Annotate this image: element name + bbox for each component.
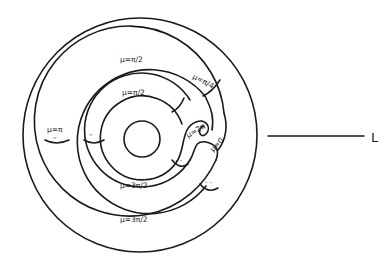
twist-strip-outer — [205, 96, 213, 130]
left-mark: – — [53, 133, 57, 142]
label-outer-bottom: μ=3π/2 — [120, 215, 148, 224]
dots-mark-2: · · — [205, 178, 212, 187]
line-L-label: L — [371, 130, 379, 145]
ring-5 — [100, 96, 182, 180]
center-circle — [124, 121, 160, 157]
inner-left-mark: – — [89, 130, 93, 139]
label-inner-top: μ=π/2 — [122, 88, 145, 97]
cut-left-outer — [45, 140, 69, 143]
diagram-canvas: μ=π/2 μ=π/2 μ=π/4 μ=π – – μ=2π μ=0 μ=3π/… — [0, 0, 392, 265]
label-inner-bottom: μ=3π/2 — [120, 181, 148, 190]
label-twist-lower: μ=0 — [208, 136, 226, 154]
dots-mark-1: · · — [175, 156, 182, 165]
label-outer-top: μ=π/2 — [120, 55, 143, 64]
label-twist-upper: μ=2π — [185, 122, 208, 140]
